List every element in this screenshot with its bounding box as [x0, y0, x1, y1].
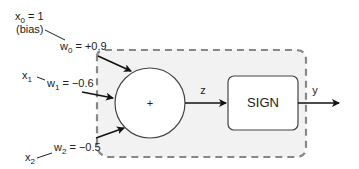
sign-label: SIGN — [247, 95, 279, 110]
y-label: y — [312, 84, 318, 96]
x1-connector — [37, 77, 45, 80]
x1-label: x1 — [22, 69, 33, 84]
x2-connector — [37, 153, 52, 158]
x2-label: x2 — [25, 151, 36, 166]
sum-symbol: + — [147, 97, 153, 109]
bias-note: (bias) — [16, 23, 44, 35]
perceptron-diagram: + z SIGN y x0 = 1 (bias) w0 = +0.9 x1 w1… — [0, 0, 359, 169]
z-label: z — [200, 84, 206, 96]
w1-label: w1 = −0.6 — [46, 77, 94, 92]
w2-label: w2 = −0.5 — [53, 141, 101, 156]
x0-connector — [45, 30, 65, 40]
